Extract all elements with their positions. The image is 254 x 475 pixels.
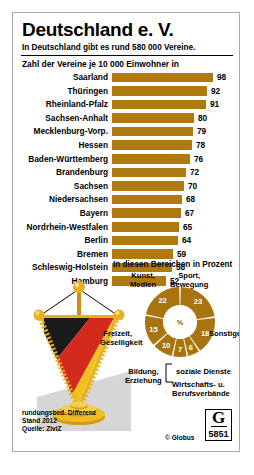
bar-fill xyxy=(112,113,194,123)
bar-value: 98 xyxy=(217,72,226,83)
bar-track xyxy=(112,249,173,259)
bar-fill xyxy=(112,140,192,150)
pie-label-bildung-erziehung: Bildung,Erziehung xyxy=(125,368,162,385)
bar-label: Hessen xyxy=(13,140,108,151)
pie-label-soziale-dienste: soziale Dienste xyxy=(176,368,231,377)
bar-value: 64 xyxy=(182,235,191,246)
bar-value: 65 xyxy=(183,222,192,233)
bar-fill xyxy=(112,86,207,96)
german-pennant-illustration xyxy=(27,271,131,431)
donut-segment-value: 15 xyxy=(149,325,158,334)
bar-track xyxy=(112,154,190,164)
footer-notes: rundungsbed. Differenz Stand 2012 Quelle… xyxy=(22,409,96,433)
bar-value: 68 xyxy=(186,194,195,205)
bar-row: Niedersachsen68 xyxy=(13,193,240,207)
bar-value: 70 xyxy=(188,181,197,192)
bar-track xyxy=(112,73,213,83)
footer-note-year: Stand 2012 xyxy=(22,417,96,425)
bar-label: Niedersachsen xyxy=(13,194,108,205)
bar-fill xyxy=(112,181,184,191)
bar-track xyxy=(112,222,179,232)
bar-row: Berlin64 xyxy=(13,234,240,248)
bar-track xyxy=(112,208,181,218)
logo-letter: G xyxy=(206,409,231,427)
bar-label: Mecklenburg-Vorp. xyxy=(13,126,108,137)
bar-track xyxy=(112,168,186,178)
bar-value: 72 xyxy=(190,167,199,178)
bar-row: Brandenburg72 xyxy=(13,166,240,180)
bar-row: Mecklenburg-Vorp.79 xyxy=(13,125,240,139)
bar-chart-heading: Zahl der Vereine je 10 000 Einwohner in xyxy=(22,59,179,69)
copyright-text: © Globus xyxy=(165,434,194,441)
bar-fill xyxy=(112,168,186,178)
bar-fill xyxy=(112,249,173,259)
bar-fill xyxy=(112,154,190,164)
bar-label: Rheinland-Pfalz xyxy=(13,99,108,110)
bar-label: Thüringen xyxy=(13,86,108,97)
footer-note-source: Quelle: ZiviZ xyxy=(22,425,96,433)
bar-fill xyxy=(112,127,193,137)
bar-label: Bayern xyxy=(13,208,108,219)
pie-label-sonstiges: Sonstiges xyxy=(209,330,240,339)
infographic-poster: Deutschland e. V. In Deutschland gibt es… xyxy=(12,12,240,452)
bar-value: 67 xyxy=(185,208,194,219)
bar-track xyxy=(112,100,206,110)
bar-value: 59 xyxy=(177,249,186,260)
bar-label: Sachsen xyxy=(13,181,108,192)
bar-label: Bremen xyxy=(13,249,108,260)
donut-chart: 231867101522% xyxy=(143,285,217,359)
bar-fill xyxy=(112,222,179,232)
bar-label: Nordrhein-Westfalen xyxy=(13,222,108,233)
bar-row: Sachsen-Anhalt80 xyxy=(13,112,240,126)
donut-center-label: % xyxy=(177,319,184,326)
bar-fill xyxy=(112,100,206,110)
pie-label-freizeit-geselligkeit: Freizeit,Geselligkeit xyxy=(100,330,132,347)
bar-row: Thüringen92 xyxy=(13,85,240,99)
donut-segment-value: 23 xyxy=(194,297,202,306)
bar-row: Hessen78 xyxy=(13,139,240,153)
logo-number: 5851 xyxy=(206,428,231,440)
bar-fill xyxy=(112,73,213,83)
bar-value: 91 xyxy=(210,99,219,110)
pie-label-sport-bewegung: Sport,Bewegung xyxy=(170,272,208,289)
bar-track xyxy=(112,195,182,205)
globus-logo: G 5851 xyxy=(205,409,232,441)
logo-underline xyxy=(211,426,227,427)
bar-value: 76 xyxy=(194,154,203,165)
bar-label: Berlin xyxy=(13,235,108,246)
bar-row: Rheinland-Pfalz91 xyxy=(13,98,240,112)
bar-row: Bayern67 xyxy=(13,207,240,221)
bar-value: 78 xyxy=(196,140,205,151)
bar-track xyxy=(112,140,192,150)
bar-label: Brandenburg xyxy=(13,167,108,178)
pie-label-wirtschafts-berufsverbaende: Wirtschafts- u.Berufsverbände xyxy=(172,381,230,398)
bar-value: 79 xyxy=(197,126,206,137)
donut-segment-value: 7 xyxy=(178,345,182,354)
bar-row: Sachsen70 xyxy=(13,180,240,194)
pie-label-kunst-medien: Kunst,Medien xyxy=(130,272,156,289)
bar-chart: Saarland98Thüringen92Rheinland-Pfalz91Sa… xyxy=(13,71,240,289)
bar-track xyxy=(112,86,207,96)
header-divider xyxy=(21,55,233,56)
bar-track xyxy=(112,236,178,246)
bar-label: Saarland xyxy=(13,72,108,83)
subtitle: In Deutschland gibt es rund 580 000 Vere… xyxy=(22,43,195,52)
bar-label: Sachsen-Anhalt xyxy=(13,113,108,124)
donut-segment-value: 10 xyxy=(162,341,170,350)
footer-note-rounding: rundungsbed. Differenz xyxy=(22,409,96,417)
bar-row: Baden-Württemberg76 xyxy=(13,153,240,167)
bar-track xyxy=(112,113,194,123)
bar-fill xyxy=(112,195,182,205)
bar-value: 92 xyxy=(211,86,220,97)
pie-leader-line xyxy=(165,363,173,383)
bar-row: Saarland98 xyxy=(13,71,240,85)
bar-fill xyxy=(112,208,181,218)
bar-row: Nordrhein-Westfalen65 xyxy=(13,221,240,235)
bar-track xyxy=(112,181,184,191)
bar-value: 80 xyxy=(198,113,207,124)
page-title: Deutschland e. V. xyxy=(22,20,174,40)
donut-segment-value: 6 xyxy=(189,343,193,352)
donut-segment-value: 22 xyxy=(158,296,166,305)
bar-track xyxy=(112,127,193,137)
pie-chart-heading: In diesen Bereichen in Prozent xyxy=(113,260,232,269)
